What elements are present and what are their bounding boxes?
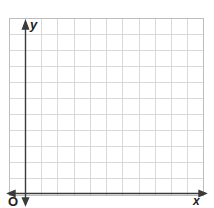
origin-label: O <box>8 194 18 208</box>
y-axis-arrow-down-icon <box>23 198 29 205</box>
grid-lines <box>9 18 204 196</box>
x-axis-arrow-right-icon <box>199 191 206 197</box>
y-axis <box>23 21 29 205</box>
y-axis-label: y <box>30 17 37 32</box>
x-axis-label: x <box>193 194 200 208</box>
y-axis-arrow-up-icon <box>23 21 29 29</box>
